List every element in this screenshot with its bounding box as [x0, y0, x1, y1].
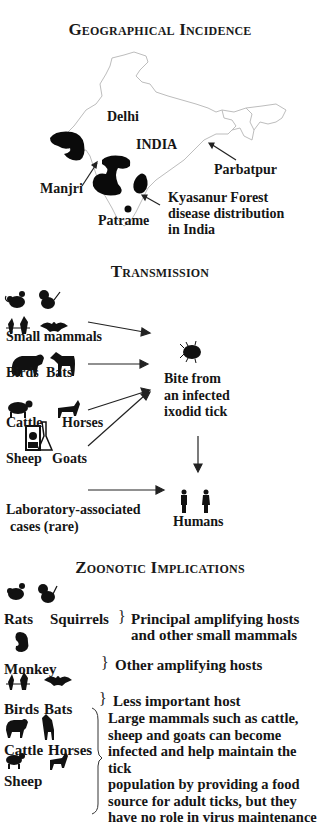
label-goats: Goats: [52, 451, 87, 467]
label-humans: Humans: [173, 514, 224, 530]
tick-line-3: ixodid tick: [164, 404, 230, 421]
principal-line-1: Principal amplifying hosts: [131, 611, 299, 627]
lab-line-1: Laboratory-associated: [6, 501, 141, 518]
label-parbatpur: Parbatpur: [214, 162, 277, 178]
brace-principal: }: [118, 608, 126, 626]
label-principal: Principal amplifying hosts and other sma…: [131, 611, 299, 643]
region-gujarat: [50, 132, 85, 161]
label-patrame: Patrame: [98, 213, 149, 229]
lab-line-2: cases (rare): [6, 518, 141, 535]
label-monkey: Monkey: [4, 661, 57, 678]
note-line-6: have no role in virus maintenance: [108, 809, 320, 826]
region-south: [133, 173, 147, 193]
label-cattle-z: Cattle: [4, 742, 43, 759]
label-kfd: Kyasanur Forest disease distribution in …: [168, 190, 284, 238]
kfd-line-2: disease distribution: [168, 206, 284, 222]
rat-icon: [7, 583, 25, 600]
label-small-mammals: Small mammals: [6, 329, 102, 345]
label-delhi: Delhi: [107, 109, 139, 125]
patrame-dot: [125, 206, 132, 213]
large-mammals-note: Large mammals such as cattle, sheep and …: [108, 710, 320, 826]
monkey-icon: [16, 632, 29, 652]
label-bats: Bats: [46, 365, 72, 381]
human-icon: [181, 490, 210, 514]
brace-other: }: [101, 654, 109, 672]
label-less: Less important host: [113, 693, 241, 710]
principal-line-2: and other small mammals: [131, 627, 299, 643]
label-birds: Birds: [6, 365, 39, 381]
squirrel-icon: [38, 584, 57, 603]
tick-line-1: Bite from: [164, 371, 230, 388]
rat-icon: [5, 291, 25, 308]
zoonotic-heading: Zoonotic Implications: [0, 558, 320, 578]
label-sheep: Sheep: [6, 451, 42, 467]
note-line-4: population by providing a food: [108, 776, 320, 793]
squirrel-icon: [39, 290, 60, 309]
note-line-1: Large mammals such as cattle,: [108, 710, 320, 727]
kfd-line-1: Kyasanur Forest: [168, 190, 284, 206]
brace-less: }: [99, 690, 107, 708]
cattle-icon: [6, 719, 28, 738]
label-sheep-z: Sheep: [4, 773, 42, 790]
note-line-2: sheep and goats can become: [108, 727, 320, 744]
note-line-5: source for adult ticks, but they: [108, 793, 320, 810]
tick-icon: [180, 341, 201, 363]
label-horses-z: Horses: [48, 742, 92, 759]
label-manjri: Manjri: [40, 181, 83, 197]
label-horses: Horses: [62, 415, 103, 431]
label-cattle: Cattle: [6, 415, 43, 431]
label-birds-z: Birds: [4, 701, 39, 718]
label-tick-bite: Bite from an infected ixodid tick: [164, 371, 230, 421]
label-squirrels: Squirrels: [50, 611, 109, 628]
large-mammals-brace: [92, 708, 102, 814]
kfd-line-3: in India: [168, 222, 284, 238]
label-rats: Rats: [4, 611, 33, 628]
label-lab: Laboratory-associated cases (rare): [6, 501, 141, 535]
label-other: Other amplifying hosts: [115, 657, 262, 674]
tick-line-2: an infected: [164, 388, 230, 405]
region-central: [93, 156, 131, 196]
note-line-3: infected and help maintain the tick: [108, 743, 320, 776]
label-bats-z: Bats: [44, 701, 72, 718]
transmission-heading: Transmission: [0, 262, 320, 282]
label-india: INDIA: [136, 137, 177, 153]
